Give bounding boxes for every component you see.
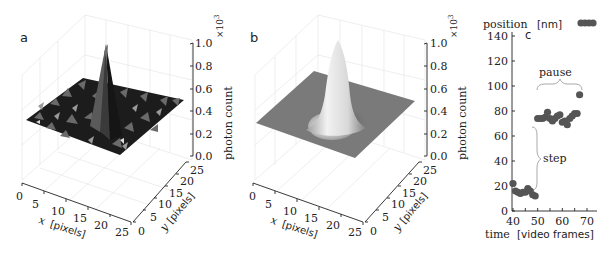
y-tick-label: 80 (494, 105, 508, 118)
y-tick-label: 100 (487, 80, 508, 93)
y-tick-label: 140 (487, 30, 508, 43)
x-tick: 20 (94, 219, 108, 232)
z-tick: 0.2 (430, 128, 448, 141)
panel-b-z-ticks: 1.0 0.8 0.6 0.4 0.2 0.0 (430, 37, 448, 163)
x-tick: 20 (326, 219, 340, 232)
data-point (556, 111, 563, 118)
x-tick: 10 (283, 205, 297, 218)
z-tick: 0.2 (195, 128, 213, 141)
z-tick: 0.0 (430, 150, 448, 163)
x-tick: 5 (32, 198, 39, 211)
z-tick: 0.4 (430, 105, 448, 118)
data-point (576, 91, 583, 98)
position-points (509, 91, 583, 199)
data-point (574, 110, 581, 117)
pause-brace (537, 79, 582, 90)
y-tick: 0 (138, 225, 145, 238)
panel-a-z-ticks: 1.0 0.8 0.6 0.4 0.2 0.0 (195, 37, 213, 163)
panel-c-y-ticks: 020406080100120140 (487, 30, 515, 218)
x-tick: 15 (304, 212, 318, 225)
panel-b-z-axis (424, 43, 427, 156)
x-tick: 0 (16, 190, 23, 203)
y-tick: 25 (423, 164, 437, 177)
y-tick: 5 (382, 211, 389, 224)
z-tick: 0.0 (195, 150, 213, 163)
svg-text:photon count: photon count (456, 86, 469, 160)
y-tick-label: 20 (494, 180, 508, 193)
x-tick-label: 60 (555, 215, 569, 228)
panel-b: 1.0 0.8 0.6 0.4 0.2 0.0 photon count ×10… (249, 15, 469, 241)
y-tick-label: 40 (494, 155, 508, 168)
x-tick: 25 (348, 226, 362, 239)
svg-text:x: x (269, 213, 280, 228)
panel-a: 1.0 0.8 0.6 0.4 0.2 0.0 photon count ×10… (16, 15, 235, 241)
pause-label: pause (539, 66, 572, 79)
y-tick-label: 120 (487, 55, 508, 68)
legend-marker (577, 19, 596, 26)
panel-label-a: a (20, 30, 28, 45)
z-tick: 0.6 (195, 83, 213, 96)
panel-c: position [nm] c 020406080100120140 40506… (483, 18, 597, 241)
data-point (564, 121, 571, 128)
x-tick-label: 70 (580, 215, 594, 228)
panel-b-z-label: photon count ×103 (447, 15, 469, 160)
svg-text:x: x (37, 213, 48, 228)
z-tick: 1.0 (430, 37, 448, 50)
z-tick: 0.4 (195, 105, 213, 118)
data-point (544, 109, 551, 116)
c-yunit: [nm] (537, 18, 562, 30)
data-point (532, 192, 539, 199)
step-brace (532, 127, 541, 190)
x-tick-label: 50 (531, 215, 545, 228)
x-tick: 15 (73, 212, 87, 225)
panel-label-c: c (525, 28, 531, 42)
x-tick: 25 (115, 226, 129, 239)
panel-label-b: b (250, 30, 258, 45)
panel-a-z-label: photon count ×103 (213, 15, 235, 160)
z-multiplier: ×103 (447, 15, 459, 38)
z-axis-label: photon count (222, 86, 235, 160)
y-tick: 25 (190, 164, 204, 177)
x-tick: 5 (265, 198, 272, 211)
figure: 1.0 0.8 0.6 0.4 0.2 0.0 photon count ×10… (0, 0, 611, 254)
x-tick: 10 (51, 205, 65, 218)
z-tick: 0.8 (430, 60, 448, 73)
c-xunit: [video frames] (517, 228, 594, 240)
step-label: step (543, 152, 567, 165)
x-tick: 0 (249, 190, 256, 203)
y-tick: 5 (150, 211, 157, 224)
data-point (509, 180, 516, 187)
c-xlabel: time (485, 228, 510, 241)
x-tick-label: 40 (506, 215, 520, 228)
z-multiplier: ×103 (213, 15, 225, 38)
z-tick: 0.8 (195, 60, 213, 73)
z-tick: 0.6 (430, 83, 448, 96)
z-tick: 1.0 (195, 37, 213, 50)
panel-a-z-axis (190, 43, 193, 156)
panel-a-y-ticks: 0 5 10 15 20 25 (138, 164, 204, 238)
panel-b-y-ticks: 0 5 10 15 20 25 (370, 164, 437, 238)
y-tick-label: 60 (494, 130, 508, 143)
y-tick: 0 (370, 225, 377, 238)
